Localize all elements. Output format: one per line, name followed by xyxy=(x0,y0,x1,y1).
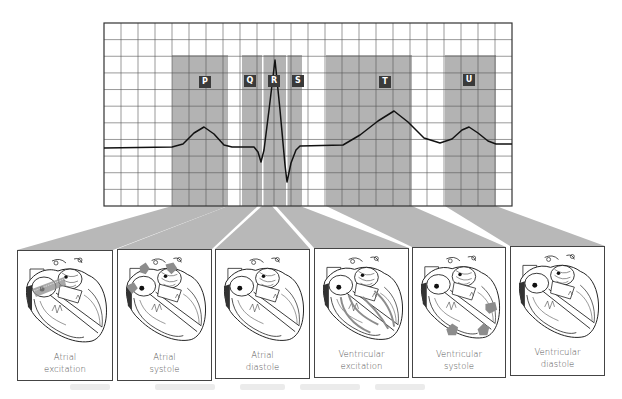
panel-ventricular-systole: Ventricularsystole xyxy=(412,247,506,378)
ecg-cardiac-cycle-diagram: P Q R S T U Atrialexcitation Atrialsysto… xyxy=(0,0,622,399)
panel-atrial-excitation: Atrialexcitation xyxy=(17,250,113,381)
wave-label-r: R xyxy=(268,75,280,87)
panel-caption: Ventricularsystole xyxy=(413,348,505,372)
wave-label-s: S xyxy=(292,75,304,87)
panel-caption: Atrialdiastole xyxy=(216,349,309,373)
panel-caption: Atrialexcitation xyxy=(18,351,112,375)
panel-caption: Atrialsystole xyxy=(118,351,211,375)
wave-label-p: P xyxy=(199,76,211,88)
wave-label-t: T xyxy=(379,76,391,88)
wave-label-q: Q xyxy=(244,75,256,87)
panel-ventricular-excitation: Ventricularexcitation xyxy=(314,248,409,378)
panel-caption: Ventriculardiastole xyxy=(511,346,604,370)
panel-ventricular-diastole: Ventriculardiastole xyxy=(510,246,605,376)
panel-atrial-diastole: Atrialdiastole xyxy=(215,249,310,379)
panel-atrial-systole: Atrialsystole xyxy=(117,249,212,381)
panel-caption: Ventricularexcitation xyxy=(315,348,408,372)
projection-beams xyxy=(17,206,605,250)
wave-label-u: U xyxy=(463,74,475,86)
wave-bands xyxy=(172,55,496,206)
